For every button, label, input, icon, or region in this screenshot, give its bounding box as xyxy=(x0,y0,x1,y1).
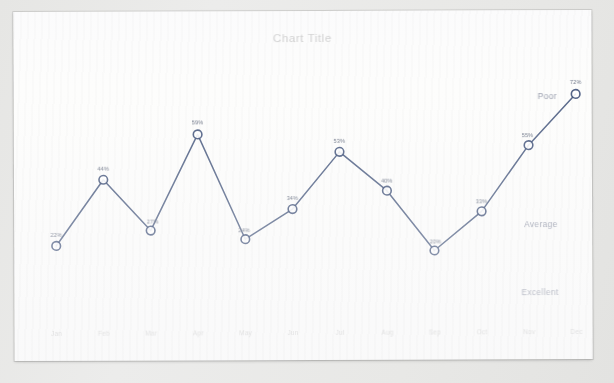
data-point-marker[interactable] xyxy=(571,90,580,99)
data-point-marker[interactable] xyxy=(477,207,486,216)
x-tick-dec: Dec xyxy=(570,328,582,335)
data-label-may: 24% xyxy=(239,227,251,233)
line-chart-svg xyxy=(13,10,592,361)
data-point-marker[interactable] xyxy=(430,246,439,255)
data-point-marker[interactable] xyxy=(288,205,297,214)
data-point-marker[interactable] xyxy=(146,226,155,235)
data-label-jun: 34% xyxy=(287,195,299,201)
x-tick-jul: Jul xyxy=(336,329,345,336)
data-point-marker[interactable] xyxy=(99,175,108,184)
data-point-marker[interactable] xyxy=(383,186,392,195)
data-point-marker[interactable] xyxy=(241,235,250,244)
data-label-jul: 53% xyxy=(334,138,346,144)
zone-label-poor: Poor xyxy=(538,91,557,101)
x-tick-jun: Jun xyxy=(287,329,298,336)
x-tick-jan: Jan xyxy=(51,330,62,337)
data-label-sep: 20% xyxy=(430,238,442,244)
data-label-dec: 72% xyxy=(570,79,582,85)
zone-label-excellent: Excellent xyxy=(521,287,558,297)
data-point-markers xyxy=(51,90,580,257)
data-label-mar: 27% xyxy=(147,219,159,225)
data-line xyxy=(56,94,577,252)
data-label-apr: 59% xyxy=(192,119,204,125)
data-label-feb: 44% xyxy=(97,166,109,172)
x-tick-apr: Apr xyxy=(193,329,204,336)
x-tick-feb: Feb xyxy=(98,330,110,337)
data-point-marker[interactable] xyxy=(193,130,202,139)
zone-label-average: Average xyxy=(524,219,558,229)
data-point-marker[interactable] xyxy=(524,141,533,150)
x-tick-oct: Oct xyxy=(477,328,488,335)
x-tick-aug: Aug xyxy=(381,329,393,336)
chart-paper-sheet: Chart Title Poor Average Excellent JanFe… xyxy=(13,10,592,361)
data-point-marker[interactable] xyxy=(52,242,61,251)
x-tick-nov: Nov xyxy=(523,328,535,335)
data-label-aug: 40% xyxy=(381,178,393,184)
data-label-oct: 33% xyxy=(476,198,488,204)
data-label-nov: 55% xyxy=(522,132,534,138)
x-tick-sep: Sep xyxy=(429,328,441,335)
x-tick-may: May xyxy=(239,329,252,336)
x-tick-mar: Mar xyxy=(145,330,157,337)
data-label-jan: 22% xyxy=(50,232,62,238)
screenshot-root: Chart Title Poor Average Excellent JanFe… xyxy=(0,0,614,383)
chart-plot-area: Chart Title Poor Average Excellent JanFe… xyxy=(13,10,592,361)
data-point-marker[interactable] xyxy=(335,148,344,157)
